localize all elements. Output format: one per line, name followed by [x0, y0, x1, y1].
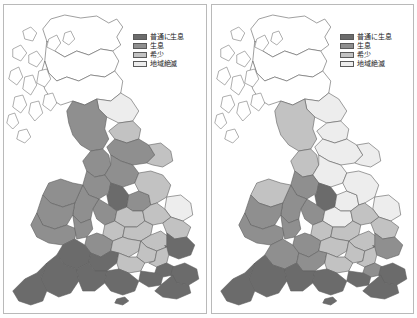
- map-panel-right: 普通に生息 生息 希少 地域絶滅: [211, 4, 415, 314]
- map-island: [23, 27, 37, 41]
- legend-row: 希少: [340, 51, 391, 59]
- legend-row: 地域絶滅: [133, 60, 184, 68]
- map-region-isle-of-wight: [322, 297, 336, 305]
- legend-label-extinct: 地域絶滅: [150, 60, 177, 68]
- legend-swatch-present: [340, 43, 354, 49]
- legend-right: 普通に生息 生息 希少 地域絶滅: [340, 33, 391, 69]
- legend-label-rare: 希少: [357, 51, 371, 59]
- two-panel-distribution-map-figure: 普通に生息 生息 希少 地域絶滅 普通に生息: [0, 0, 417, 318]
- legend-swatch-rare: [133, 52, 147, 58]
- map-region-cornwall: [13, 263, 47, 305]
- legend-row: 普通に生息: [340, 33, 391, 41]
- map-region-hampshire: [312, 269, 346, 295]
- legend-left: 普通に生息 生息 希少 地域絶滅: [133, 33, 184, 69]
- legend-swatch-common: [133, 34, 147, 40]
- map-region-isle-of-wight: [115, 297, 129, 305]
- map-island: [224, 129, 238, 143]
- legend-row: 普通に生息: [133, 33, 184, 41]
- legend-label-common: 普通に生息: [357, 33, 391, 41]
- map-island: [220, 45, 234, 61]
- map-island: [7, 113, 19, 129]
- legend-swatch-extinct: [340, 61, 354, 67]
- map-island: [214, 113, 226, 129]
- legend-label-present: 生息: [357, 42, 371, 50]
- map-island: [236, 101, 250, 121]
- map-island: [13, 45, 27, 61]
- legend-row: 地域絶滅: [340, 60, 391, 68]
- map-region-hampshire: [105, 269, 139, 295]
- map-island: [13, 95, 27, 113]
- map-island: [236, 51, 250, 67]
- map-island: [220, 95, 234, 113]
- legend-swatch-common: [340, 34, 354, 40]
- map-panel-left: 普通に生息 生息 希少 地域絶滅: [3, 4, 207, 314]
- map-region-cornwall: [220, 263, 254, 305]
- legend-swatch-extinct: [133, 61, 147, 67]
- map-island: [23, 75, 37, 95]
- legend-row: 生息: [133, 42, 184, 50]
- legend-swatch-rare: [340, 52, 354, 58]
- map-island: [17, 129, 31, 143]
- legend-swatch-present: [133, 43, 147, 49]
- legend-row: 生息: [340, 42, 391, 50]
- map-island: [230, 27, 244, 41]
- legend-label-present: 生息: [150, 42, 164, 50]
- legend-label-extinct: 地域絶滅: [357, 60, 384, 68]
- legend-label-common: 普通に生息: [150, 33, 184, 41]
- legend-row: 希少: [133, 51, 184, 59]
- map-island: [216, 67, 230, 85]
- map-island: [9, 67, 23, 85]
- map-island: [29, 101, 43, 121]
- legend-label-rare: 希少: [150, 51, 164, 59]
- map-island: [29, 51, 43, 67]
- map-island: [230, 75, 244, 95]
